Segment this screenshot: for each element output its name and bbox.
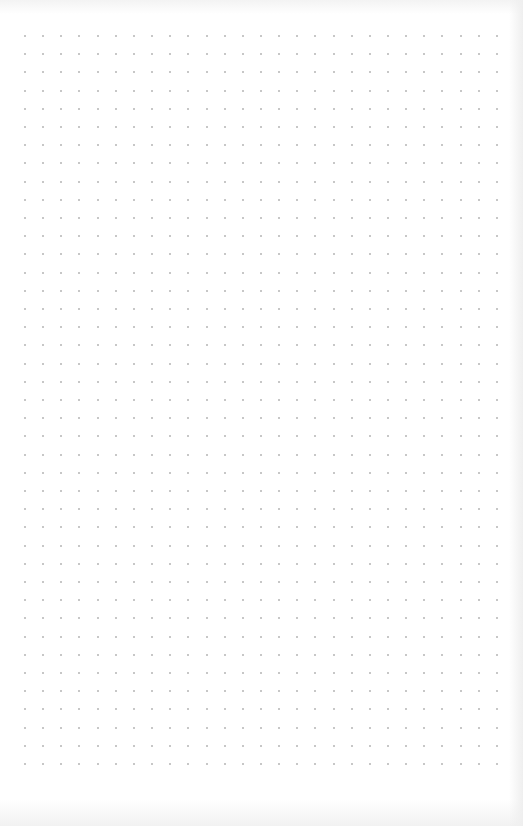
- grid-dot: [423, 581, 425, 583]
- grid-dot: [133, 35, 135, 37]
- grid-dot: [369, 126, 371, 128]
- grid-dot: [42, 90, 44, 92]
- page-edge-shadow: [509, 0, 523, 826]
- grid-dot: [387, 708, 389, 710]
- grid-dot: [60, 599, 62, 601]
- grid-dot: [133, 708, 135, 710]
- grid-dot: [296, 563, 298, 565]
- grid-dot: [314, 399, 316, 401]
- grid-dot: [405, 35, 407, 37]
- grid-dot: [405, 308, 407, 310]
- grid-dot: [478, 690, 480, 692]
- grid-dot: [405, 526, 407, 528]
- grid-dot: [169, 199, 171, 201]
- grid-dot: [206, 690, 208, 692]
- grid-dot: [351, 272, 353, 274]
- grid-dot: [187, 690, 189, 692]
- grid-dot: [78, 217, 80, 219]
- grid-dot: [260, 144, 262, 146]
- grid-dot: [260, 272, 262, 274]
- grid-dot: [278, 636, 280, 638]
- grid-dot: [405, 90, 407, 92]
- grid-dot: [333, 399, 335, 401]
- grid-dot: [60, 326, 62, 328]
- grid-dot: [42, 126, 44, 128]
- dot-grid-page: [0, 0, 523, 826]
- grid-dot: [187, 35, 189, 37]
- grid-dot: [369, 108, 371, 110]
- grid-dot: [351, 545, 353, 547]
- grid-dot: [405, 108, 407, 110]
- grid-dot: [115, 727, 117, 729]
- grid-dot: [60, 472, 62, 474]
- grid-dot: [423, 526, 425, 528]
- grid-dot: [133, 253, 135, 255]
- grid-dot: [24, 599, 26, 601]
- grid-dot: [115, 563, 117, 565]
- grid-dot: [42, 763, 44, 765]
- grid-dot: [460, 508, 462, 510]
- grid-dot: [478, 727, 480, 729]
- grid-dot: [496, 490, 498, 492]
- grid-dot: [60, 763, 62, 765]
- grid-dot: [423, 654, 425, 656]
- grid-dot: [151, 381, 153, 383]
- grid-dot: [260, 381, 262, 383]
- grid-dot: [242, 417, 244, 419]
- grid-dot: [42, 235, 44, 237]
- grid-dot: [60, 162, 62, 164]
- grid-dot: [278, 199, 280, 201]
- grid-dot: [314, 417, 316, 419]
- grid-dot: [496, 108, 498, 110]
- grid-dot: [369, 181, 371, 183]
- grid-dot: [260, 71, 262, 73]
- grid-dot: [78, 399, 80, 401]
- grid-dot: [441, 381, 443, 383]
- grid-dot: [151, 181, 153, 183]
- grid-dot: [387, 71, 389, 73]
- grid-dot: [242, 272, 244, 274]
- grid-dot: [405, 363, 407, 365]
- grid-dot: [24, 217, 26, 219]
- grid-dot: [78, 90, 80, 92]
- grid-dot: [242, 126, 244, 128]
- grid-dot: [78, 363, 80, 365]
- grid-dot: [333, 162, 335, 164]
- grid-dot: [169, 672, 171, 674]
- grid-dot: [423, 199, 425, 201]
- grid-dot: [278, 654, 280, 656]
- grid-dot: [314, 272, 316, 274]
- grid-dot: [496, 745, 498, 747]
- grid-dot: [97, 272, 99, 274]
- grid-dot: [187, 162, 189, 164]
- grid-dot: [60, 308, 62, 310]
- grid-dot: [24, 253, 26, 255]
- grid-dot: [260, 399, 262, 401]
- grid-dot: [405, 235, 407, 237]
- grid-dot: [333, 435, 335, 437]
- grid-dot: [169, 435, 171, 437]
- grid-dot: [296, 727, 298, 729]
- grid-dot: [224, 763, 226, 765]
- grid-dot: [278, 435, 280, 437]
- grid-dot: [423, 217, 425, 219]
- grid-dot: [351, 472, 353, 474]
- grid-dot: [441, 144, 443, 146]
- grid-dot: [460, 399, 462, 401]
- grid-dot: [42, 526, 44, 528]
- grid-dot: [460, 435, 462, 437]
- grid-dot: [351, 654, 353, 656]
- grid-dot: [42, 217, 44, 219]
- grid-dot: [242, 454, 244, 456]
- grid-dot: [441, 90, 443, 92]
- grid-dot: [333, 326, 335, 328]
- grid-dot: [206, 217, 208, 219]
- grid-dot: [187, 90, 189, 92]
- grid-dot: [133, 672, 135, 674]
- grid-dot: [441, 363, 443, 365]
- grid-dot: [187, 435, 189, 437]
- grid-dot: [115, 108, 117, 110]
- grid-dot: [351, 126, 353, 128]
- grid-dot: [60, 399, 62, 401]
- grid-dot: [169, 381, 171, 383]
